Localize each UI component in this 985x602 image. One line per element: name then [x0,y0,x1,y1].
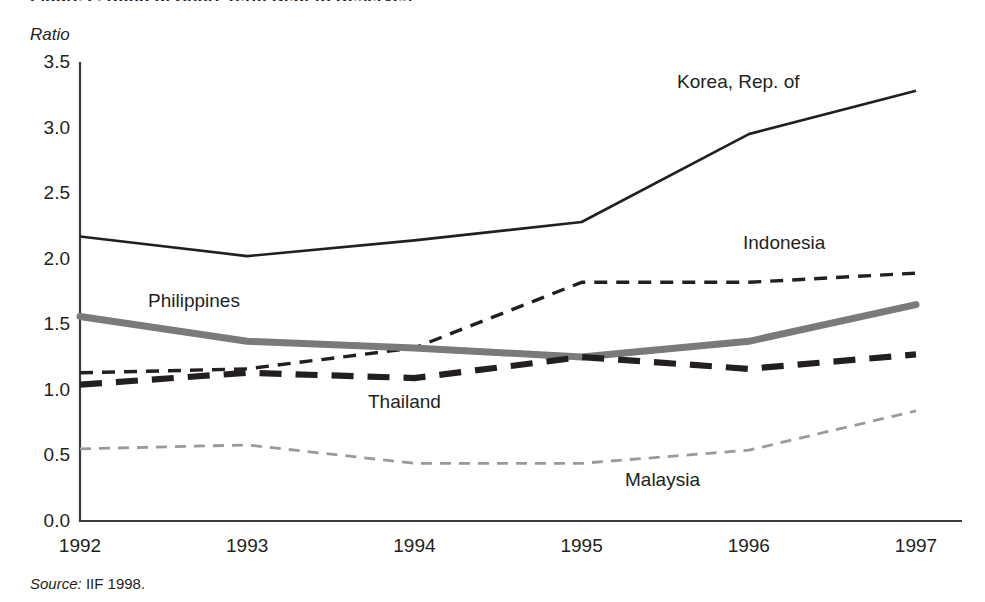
x-axis-tick-label: 1995 [527,536,637,555]
y-axis-tick-label: 2.0 [8,249,70,268]
source-prefix: Source: [30,575,82,592]
series-label-malaysia: Malaysia [625,470,700,489]
x-axis-tick-label: 1992 [25,536,135,555]
y-axis-tick-label: 0.5 [8,445,70,464]
y-axis-tick-label: 0.0 [8,511,70,530]
series-line-thailand [80,354,916,384]
y-axis-tick-label: 3.0 [8,118,70,137]
series-line-philippines [80,305,916,357]
source-note: Source: IIF 1998. [30,575,145,592]
y-axis-tick-label: 2.5 [8,183,70,202]
x-axis-tick-label: 1993 [192,536,302,555]
figure-container: Figure 2. Ratio of Short-Term Debt to Re… [0,0,985,602]
series-label-thailand: Thailand [368,392,441,411]
y-axis-tick-label: 1.0 [8,380,70,399]
source-text: IIF 1998. [86,575,145,592]
x-axis-tick-label: 1997 [861,536,971,555]
series-label-korea-rep-of: Korea, Rep. of [677,72,800,91]
y-axis-tick-label: 1.5 [8,314,70,333]
x-axis-tick-label: 1996 [694,536,804,555]
x-axis-tick-label: 1994 [359,536,469,555]
y-axis-tick-label: 3.5 [8,52,70,71]
series-label-indonesia: Indonesia [743,233,825,252]
series-line-indonesia [80,273,916,373]
series-label-philippines: Philippines [148,291,240,310]
series-line-malaysia [80,411,916,463]
series-group [80,91,916,463]
